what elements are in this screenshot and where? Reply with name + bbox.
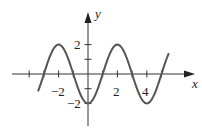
x-axis-label: x xyxy=(191,76,198,91)
x-tick-label-neg2: −2 xyxy=(51,84,65,99)
y-tick-label-neg2: −2 xyxy=(67,96,81,111)
y-tick-label-2: 2 xyxy=(74,37,81,52)
function-plot: x y −2 2 4 2 −2 xyxy=(0,0,202,131)
x-tick-label-4: 4 xyxy=(142,84,149,99)
y-axis-arrow-icon xyxy=(85,12,92,23)
x-tick-label-2: 2 xyxy=(113,84,120,99)
y-axis-label: y xyxy=(93,6,101,21)
